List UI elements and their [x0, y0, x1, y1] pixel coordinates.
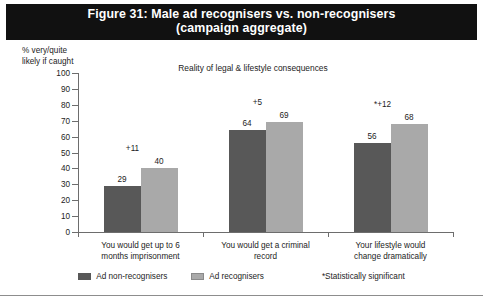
bar-2-1[interactable] [391, 124, 428, 232]
bar-value-label-2-0: 56 [367, 132, 376, 141]
y-axis-tick-70 [72, 121, 78, 122]
y-axis-tick-60 [72, 137, 78, 138]
legend-swatch-icon-1 [191, 273, 204, 280]
legend-item-1: Ad recognisers [191, 272, 264, 281]
bar-value-label-0-0: 29 [117, 175, 126, 184]
bar-0-1[interactable] [141, 168, 178, 232]
y-axis-tick-90 [72, 89, 78, 90]
bar-value-label-0-1: 40 [154, 157, 163, 166]
legend-label-1: Ad recognisers [209, 272, 264, 281]
chart-legend: Ad non-recognisers Ad recognisers *Stati… [0, 272, 483, 281]
figure-title-banner: Figure 31: Male ad recognisers vs. non-r… [6, 4, 477, 40]
x-axis-tick-0 [78, 232, 79, 237]
bar-1-1[interactable] [266, 122, 303, 232]
x-axis-tick-2 [328, 232, 329, 237]
plot-subtitle: Reality of legal & lifestyle consequence… [138, 63, 368, 73]
bars-layer: 2940+116469+55668*+12 [78, 73, 453, 232]
x-axis-tick-1 [203, 232, 204, 237]
y-axis-label-20: 20 [10, 196, 70, 205]
y-axis-tick-30 [72, 184, 78, 185]
y-axis-label-0: 0 [10, 228, 70, 237]
category-label-1: You would get a criminal record [205, 240, 326, 262]
y-axis-label-10: 10 [10, 212, 70, 221]
y-axis-tick-10 [72, 216, 78, 217]
legend-label-0: Ad non-recognisers [96, 272, 167, 281]
bar-value-label-2-1: 68 [404, 113, 413, 122]
y-axis-tick-20 [72, 200, 78, 201]
y-axis-label-40: 40 [10, 164, 70, 173]
y-axis-label-50: 50 [10, 148, 70, 157]
x-axis-line [78, 232, 453, 233]
y-axis-label-30: 30 [10, 180, 70, 189]
y-axis-label-100: 100 [10, 69, 70, 78]
bar-1-0[interactable] [229, 130, 266, 232]
y-axis-tick-100 [72, 73, 78, 74]
figure-container: Figure 31: Male ad recognisers vs. non-r… [0, 0, 483, 296]
delta-annotation-2: *+12 [374, 100, 391, 109]
bar-0-0[interactable] [104, 186, 141, 232]
legend-swatch-icon-0 [78, 273, 91, 280]
y-axis-label-70: 70 [10, 116, 70, 125]
y-axis-tick-50 [72, 153, 78, 154]
y-axis-label-60: 60 [10, 132, 70, 141]
bar-value-label-1-0: 64 [242, 119, 251, 128]
category-label-0: You would get up to 6 months imprisonmen… [80, 240, 201, 262]
legend-item-0: Ad non-recognisers [78, 272, 167, 281]
y-axis-tick-labels: 0102030405060708090100 [0, 0, 70, 296]
y-axis-label-90: 90 [10, 84, 70, 93]
category-label-2: Your lifestyle would change dramatically [330, 240, 451, 262]
y-axis-label-80: 80 [10, 100, 70, 109]
delta-annotation-0: +11 [126, 144, 139, 153]
y-axis-tick-40 [72, 168, 78, 169]
bar-2-0[interactable] [354, 143, 391, 232]
figure-title-line-1: Figure 31: Male ad recognisers vs. non-r… [88, 8, 396, 22]
y-axis-tick-80 [72, 105, 78, 106]
delta-annotation-1: +5 [253, 98, 262, 107]
significance-footnote: *Statistically significant [322, 272, 405, 281]
figure-title-line-2: (campaign aggregate) [176, 22, 307, 36]
bar-value-label-1-1: 69 [279, 111, 288, 120]
x-axis-tick-end [453, 232, 454, 237]
